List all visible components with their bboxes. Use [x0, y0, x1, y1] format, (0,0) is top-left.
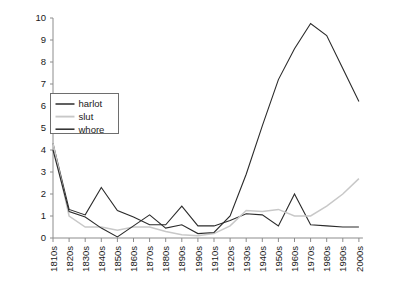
x-tick-label: 1910s: [209, 246, 220, 272]
x-tick-label: 1870s: [144, 246, 155, 272]
y-tick-label: 1: [41, 210, 46, 221]
x-axis: 1810s1820s1830s1840s1850s1860s1870s1880s…: [48, 238, 365, 272]
line-chart: 0123456789101810s1820s1830s1840s1850s186…: [0, 0, 402, 291]
x-tick-label: 1860s: [128, 246, 139, 272]
x-tick-label: 1970s: [305, 246, 316, 272]
x-tick-label: 2000s: [354, 246, 365, 272]
y-tick-label: 8: [41, 56, 46, 67]
y-tick-label: 10: [35, 12, 46, 23]
x-tick-label: 1850s: [112, 246, 123, 272]
x-tick-label: 1990s: [193, 246, 204, 272]
y-tick-label: 4: [41, 144, 46, 155]
legend-label-slut: slut: [79, 111, 94, 122]
x-tick-label: 1920s: [225, 246, 236, 272]
y-tick-label: 7: [41, 78, 46, 89]
x-tick-label: 1940s: [257, 246, 268, 272]
x-tick-label: 1890s: [176, 246, 187, 272]
y-tick-label: 5: [41, 122, 46, 133]
y-tick-label: 3: [41, 166, 46, 177]
y-tick-label: 0: [41, 232, 46, 243]
x-tick-label: 1930s: [241, 246, 252, 272]
series-line-slut: [53, 143, 359, 235]
x-tick-label: 1990s: [337, 246, 348, 272]
x-tick-label: 1950s: [273, 246, 284, 272]
x-tick-label: 1830s: [80, 246, 91, 272]
legend-label-whore: whore: [78, 124, 105, 135]
y-tick-label: 9: [41, 34, 46, 45]
x-tick-label: 1840s: [96, 246, 107, 272]
chart-canvas: 0123456789101810s1820s1830s1840s1850s186…: [0, 0, 402, 291]
legend: harlotslutwhore: [51, 94, 119, 135]
x-tick-label: 1880s: [160, 246, 171, 272]
x-tick-label: 1980s: [321, 246, 332, 272]
y-tick-label: 6: [41, 100, 46, 111]
y-tick-label: 2: [41, 188, 46, 199]
legend-label-harlot: harlot: [79, 98, 103, 109]
x-tick-label: 1820s: [64, 246, 75, 272]
x-tick-label: 1960s: [289, 246, 300, 272]
x-tick-label: 1810s: [48, 246, 59, 272]
